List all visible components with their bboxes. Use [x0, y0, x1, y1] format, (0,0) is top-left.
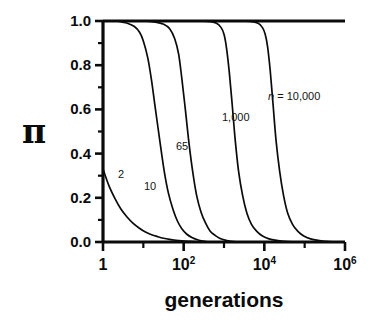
curve-label: 65 — [176, 140, 188, 152]
y-tick-label: 0.0 — [47, 233, 91, 250]
x-axis-label: generations — [103, 288, 345, 312]
x-tick-label: 1 — [73, 256, 133, 274]
y-tick-label: 1.0 — [47, 12, 91, 29]
curve-label: 1,000 — [222, 111, 250, 123]
x-tick-label: 104 — [234, 256, 294, 274]
y-tick-label: 0.2 — [47, 189, 91, 206]
figure-container: π generations 1.00.80.60.40.20.0 1102104… — [0, 0, 371, 330]
y-tick-label: 0.4 — [47, 145, 91, 162]
caption-strip — [0, 318, 371, 330]
y-tick-label: 0.8 — [47, 56, 91, 73]
y-tick-label: 0.6 — [47, 100, 91, 117]
chart-plot-area — [0, 0, 371, 330]
data-curves — [103, 21, 335, 242]
curve-label: 10 — [144, 180, 156, 192]
curve-label: 2 — [118, 168, 124, 180]
axis-lines — [103, 21, 345, 242]
x-tick-label: 106 — [315, 256, 371, 274]
x-tick-label: 102 — [154, 256, 214, 274]
curve-label: n = 10,000 — [268, 90, 320, 102]
axis-ticks — [95, 21, 345, 251]
